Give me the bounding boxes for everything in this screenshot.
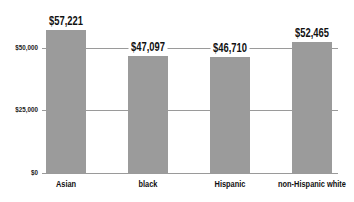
- ytick-25000: $25,000: [15, 105, 38, 115]
- xlabel-non-hispanic-white: non-Hispanic white: [265, 178, 354, 190]
- value-label-asian: $57,221: [35, 14, 97, 28]
- baseline-0: [42, 173, 338, 174]
- value-label-non-hispanic-white: $52,465: [281, 26, 343, 40]
- xlabel-asian: Asian: [19, 178, 113, 190]
- bar-non-hispanic-white: [292, 42, 332, 173]
- xlabel-hispanic: Hispanic: [183, 178, 277, 190]
- ytick-50000: $50,000: [15, 43, 38, 53]
- value-label-hispanic: $46,710: [199, 41, 261, 55]
- bar-black: [128, 56, 168, 173]
- ytick-0: $0: [31, 168, 38, 178]
- xlabel-black: black: [101, 178, 195, 190]
- bar-asian: [46, 30, 86, 173]
- median-income-bar-chart: $50,000 $25,000 $0 $57,221 $47,097 $46,7…: [0, 0, 354, 202]
- bar-hispanic: [210, 57, 250, 173]
- value-label-black: $47,097: [117, 40, 179, 54]
